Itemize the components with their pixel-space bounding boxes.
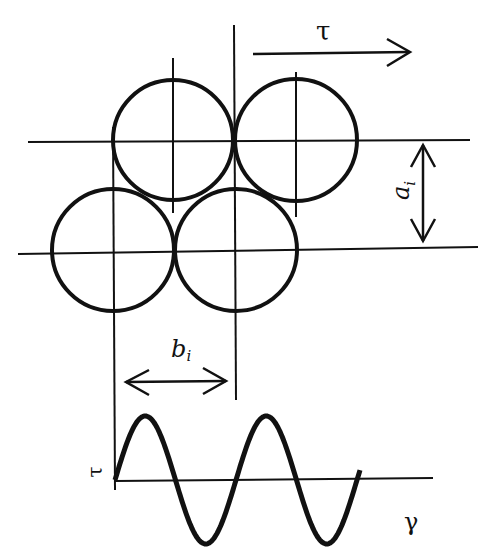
packed-layers-diagram: τ ai bi τ γ xyxy=(0,0,486,560)
vertical-line-center xyxy=(234,25,236,400)
vertical-line-left xyxy=(113,127,115,490)
strain-axis-label: γ xyxy=(404,508,418,536)
particle-spacing-arrow xyxy=(126,368,226,395)
layer-spacing-label: ai xyxy=(387,181,419,200)
particle-circles xyxy=(52,79,357,311)
stress-axis-label: τ xyxy=(83,466,107,477)
svg-text:ai: ai xyxy=(387,181,419,200)
shear-stress-label: τ xyxy=(316,16,330,46)
upper-layer-line xyxy=(28,140,470,142)
particle-spacing-label: bi xyxy=(171,335,191,365)
lower-layer-line xyxy=(18,247,478,254)
svg-text:τ: τ xyxy=(83,466,107,477)
shear-direction-arrow xyxy=(253,39,410,66)
strain-axis xyxy=(115,478,433,481)
